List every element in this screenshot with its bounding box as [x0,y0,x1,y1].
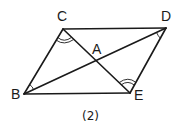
figure-caption: (2) [82,110,99,122]
point-label-b: B [11,87,20,101]
angle-mark-e-arc-1 [121,82,134,85]
angle-mark-b-arc [30,85,34,90]
segment-de [130,28,166,93]
segment-bd [24,28,166,94]
segment-cd [63,28,166,29]
point-label-e: E [134,88,143,102]
point-label-c: C [57,9,67,23]
angle-mark-c-arc-1 [58,37,72,40]
segment-ce [63,29,130,93]
angle-mark-d-arc [157,32,161,38]
point-label-d: D [161,9,171,23]
geometry-figure: C D A B E (2) [0,0,182,131]
point-label-a: A [92,42,101,56]
segment-be [24,93,130,94]
